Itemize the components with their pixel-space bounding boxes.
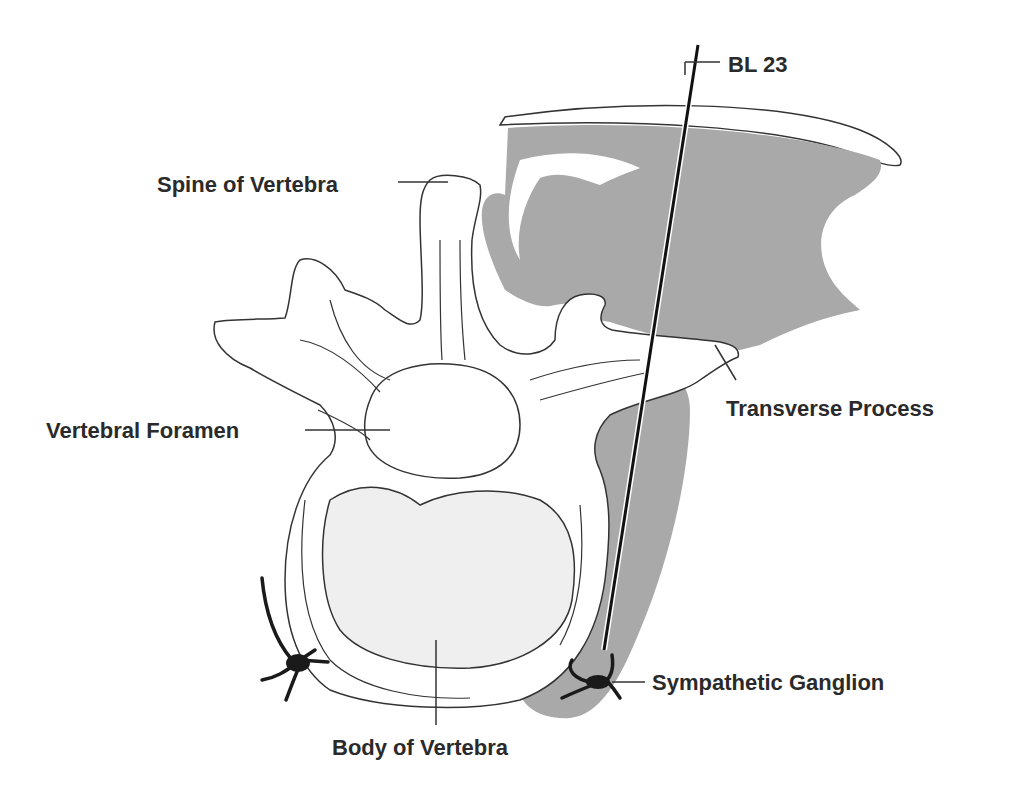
label-body-of-vertebra: Body of Vertebra [332,735,509,760]
label-sympathetic-ganglion: Sympathetic Ganglion [652,670,884,695]
label-spine-of-vertebra: Spine of Vertebra [157,172,339,197]
vertebral-body [323,487,575,668]
vertebra-cross-section-diagram: BL 23 Spine of Vertebra Vertebral Forame… [0,0,1027,811]
label-vertebral-foramen: Vertebral Foramen [46,418,239,443]
label-transverse-process: Transverse Process [726,396,934,421]
label-bl23: BL 23 [728,52,788,77]
vertebral-foramen [365,364,520,478]
